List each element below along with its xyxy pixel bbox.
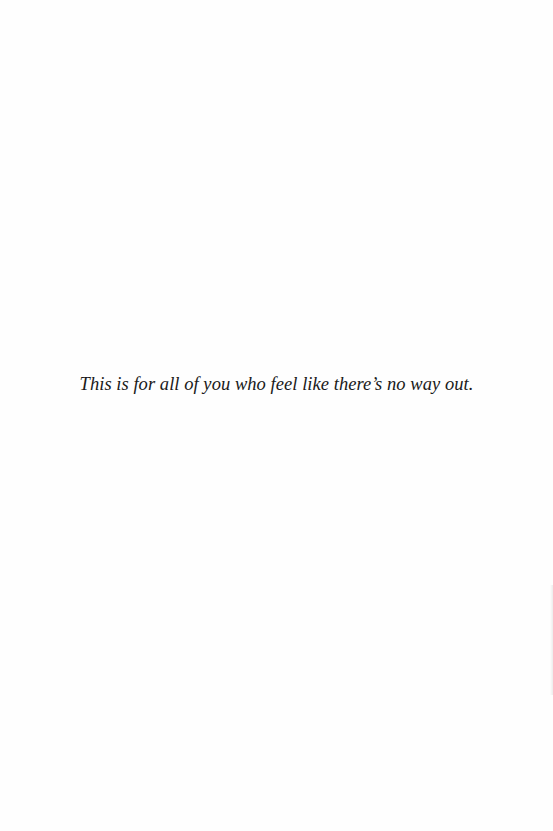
dedication-text: This is for all of you who feel like the… — [0, 371, 553, 397]
dedication-page: This is for all of you who feel like the… — [0, 0, 553, 831]
